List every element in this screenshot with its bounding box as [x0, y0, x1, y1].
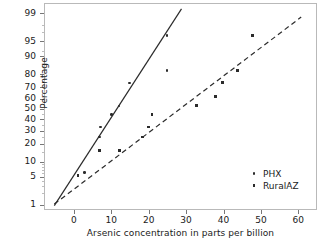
data-point-ruralaz [98, 149, 101, 152]
y-tick-label: 40 [14, 115, 36, 124]
y-tick-mark [40, 205, 44, 206]
data-point-phx [128, 82, 131, 85]
y-tick-label: 10 [14, 157, 36, 166]
y-tick-label: 30 [14, 126, 36, 135]
square-marker-icon [248, 184, 260, 187]
y-minor-tick [42, 186, 44, 187]
probability-plot-chart: 151020304050607080909599 0102030405060 P… [0, 0, 329, 250]
data-point-phx [110, 113, 113, 116]
data-point-ruralaz [151, 113, 154, 116]
y-tick-mark [40, 162, 44, 163]
x-tick-label: 20 [137, 216, 161, 225]
legend-label-ruralaz: RuralAZ [263, 181, 299, 191]
legend-label-phx: PHX [263, 169, 281, 179]
y-tick-label: 99 [14, 9, 36, 18]
x-tick-mark [74, 210, 75, 214]
x-tick-label: 30 [174, 216, 198, 225]
legend: PHX RuralAZ [248, 168, 299, 192]
y-tick-label: 1 [14, 200, 36, 209]
y-tick-label: 80 [14, 70, 36, 79]
x-tick-mark [261, 210, 262, 214]
x-tick-mark [149, 210, 150, 214]
x-tick-label: 40 [212, 216, 236, 225]
data-point-ruralaz [214, 95, 217, 98]
y-tick-label: 20 [14, 139, 36, 148]
y-tick-mark [40, 177, 44, 178]
x-tick-mark [224, 210, 225, 214]
y-minor-tick [42, 173, 44, 174]
y-tick-label: 70 [14, 83, 36, 92]
x-tick-label: 50 [249, 216, 273, 225]
y-tick-label: 90 [14, 52, 36, 61]
y-tick-label: 50 [14, 104, 36, 113]
y-minor-tick [42, 167, 44, 168]
y-tick-mark [40, 13, 44, 14]
x-tick-mark [186, 210, 187, 214]
data-point-phx [83, 171, 86, 174]
fit-line-phx [54, 9, 181, 206]
y-minor-tick [42, 181, 44, 182]
x-tick-label: 60 [286, 216, 310, 225]
y-minor-tick [42, 193, 44, 194]
y-tick-label: 5 [14, 172, 36, 181]
x-tick-label: 0 [62, 216, 86, 225]
y-minor-tick [42, 152, 44, 153]
y-axis-title: Percentage [39, 23, 49, 143]
y-minor-tick [42, 164, 44, 165]
data-point-phx [99, 126, 102, 129]
data-point-ruralaz [141, 136, 144, 139]
data-point-ruralaz [77, 174, 80, 177]
x-axis-title: Arsenic concentration in parts per billi… [44, 228, 317, 238]
data-point-ruralaz [147, 126, 150, 129]
x-tick-mark [111, 210, 112, 214]
legend-item-ruralaz[interactable]: RuralAZ [248, 180, 299, 191]
x-tick-label: 10 [99, 216, 123, 225]
data-point-phx [166, 69, 169, 72]
y-tick-label: 95 [14, 37, 36, 46]
y-tick-mark [40, 144, 44, 145]
data-point-ruralaz [251, 34, 254, 37]
y-tick-label: 60 [14, 94, 36, 103]
data-point-phx [166, 34, 169, 37]
y-minor-tick [42, 170, 44, 171]
data-point-ruralaz [236, 69, 239, 72]
data-point-ruralaz [195, 104, 198, 107]
data-point-ruralaz [221, 81, 224, 84]
legend-item-phx[interactable]: PHX [248, 168, 299, 179]
data-point-ruralaz [118, 149, 121, 152]
x-tick-mark [298, 210, 299, 214]
dot-marker-icon [248, 172, 260, 175]
